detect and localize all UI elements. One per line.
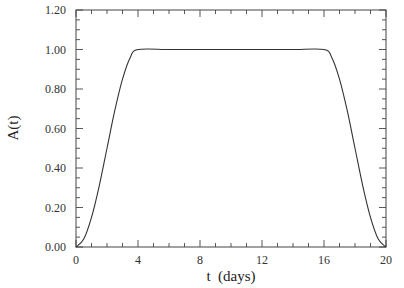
chart: 048121620 0.000.200.400.600.801.001.20 t… bbox=[0, 0, 404, 288]
x-tick-label: 20 bbox=[380, 253, 392, 267]
axis-ticks bbox=[76, 10, 386, 247]
plot-border bbox=[76, 10, 386, 247]
x-tick-label: 0 bbox=[73, 253, 79, 267]
x-axis-label: t (days) bbox=[206, 268, 255, 285]
x-tick-label: 12 bbox=[256, 253, 268, 267]
y-tick-label: 0.40 bbox=[45, 161, 66, 175]
x-tick-label: 8 bbox=[197, 253, 203, 267]
y-tick-label: 0.00 bbox=[45, 240, 66, 254]
x-tick-labels: 048121620 bbox=[73, 253, 392, 267]
y-tick-label: 0.60 bbox=[45, 122, 66, 136]
y-tick-label: 0.20 bbox=[45, 201, 66, 215]
y-tick-label: 0.80 bbox=[45, 82, 66, 96]
y-tick-label: 1.20 bbox=[45, 3, 66, 17]
y-axis-label: A(t) bbox=[5, 116, 22, 141]
y-tick-labels: 0.000.200.400.600.801.001.20 bbox=[45, 3, 66, 254]
x-tick-label: 16 bbox=[318, 253, 330, 267]
x-tick-label: 4 bbox=[135, 253, 141, 267]
plot-frame bbox=[76, 10, 386, 247]
series-line-a-of-t bbox=[76, 49, 386, 247]
y-tick-label: 1.00 bbox=[45, 43, 66, 57]
